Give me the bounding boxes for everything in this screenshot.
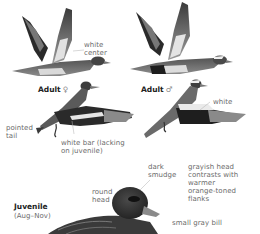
caption-adult-female: Adult♀ [38,85,68,94]
field-guide-plate: white center Adult♀ Adult♂ white pointed… [0,0,260,234]
label-white: white [213,98,232,106]
label-pointed-tail: pointed tail [6,124,33,140]
label-round-head: round head [92,188,113,204]
label-dark-smudge: dark smudge [148,163,176,179]
label-white-center: white center [84,41,107,57]
label-white-bar: white bar (lacking on juvenile) [61,139,125,155]
adult-male-upstroke-figure [130,2,233,74]
caption-juvenile-season: (Aug–Nov) [14,212,51,220]
label-small-gray-bill: small gray bill [172,219,222,227]
caption-text: Adult [141,85,164,94]
female-symbol: ♀ [63,85,69,94]
male-symbol: ♂ [166,85,173,94]
caption-text: Adult [38,85,61,94]
caption-juvenile: Juvenile [14,202,48,211]
label-grayish-head: grayish head contrasts with warmer orang… [188,163,238,203]
caption-adult-male: Adult♂ [141,85,172,94]
